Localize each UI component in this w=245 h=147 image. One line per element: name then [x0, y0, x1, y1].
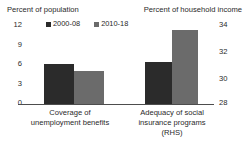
left-tick-12: 12 [14, 21, 22, 29]
bar-coverage-2000-08 [44, 64, 74, 104]
bar-adequacy-2010-18 [172, 30, 198, 104]
category-label-adequacy-line-2: insurance programs [120, 118, 224, 128]
category-label-adequacy-line-3: (RHS) [120, 128, 224, 138]
category-label-adequacy: Adequacy of social insurance programs (R… [120, 108, 224, 138]
bar-coverage-2010-18 [74, 71, 104, 104]
left-tick-9: 9 [18, 41, 22, 49]
right-tick-28: 28 [219, 99, 227, 107]
category-label-coverage-line-1: Coverage of [18, 108, 122, 118]
bar-chart: Percent of population Percent of househo… [0, 0, 245, 147]
category-label-coverage-line-2: unemployment benefits [18, 118, 122, 128]
left-tick-6: 6 [18, 60, 22, 68]
right-tick-32: 32 [219, 48, 227, 56]
right-tick-34: 34 [219, 21, 227, 29]
left-tick-0: 0 [18, 99, 22, 107]
category-label-adequacy-line-1: Adequacy of social [120, 108, 224, 118]
right-tick-30: 30 [219, 75, 227, 83]
plot-area [26, 25, 214, 104]
bar-adequacy-2000-08 [145, 62, 172, 104]
category-label-coverage: Coverage of unemployment benefits [18, 108, 122, 128]
x-axis-line [18, 104, 214, 105]
left-tick-3: 3 [18, 80, 22, 88]
